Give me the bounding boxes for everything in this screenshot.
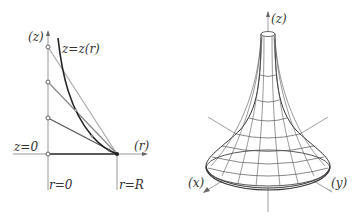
r-R-label: r=R bbox=[119, 178, 144, 192]
y-axis-label: (y) bbox=[331, 176, 347, 190]
tangent-point bbox=[108, 149, 111, 152]
x-axis-label: (x) bbox=[188, 176, 204, 190]
tangent-line-mid bbox=[48, 82, 117, 154]
top-ring bbox=[261, 32, 275, 37]
tangent-point bbox=[75, 109, 78, 112]
z-zero-label: z=0 bbox=[13, 140, 38, 154]
surface-outline bbox=[206, 34, 330, 188]
surface-of-revolution-diagram: (z) (x) (y) bbox=[188, 11, 347, 212]
profile-curve-diagram: (z) z=z(r) z=0 (r) r=0 r=R bbox=[13, 30, 149, 192]
z-axis-arrow-icon bbox=[46, 30, 50, 36]
tangent-line-top bbox=[48, 47, 117, 154]
axis-point bbox=[46, 116, 50, 120]
z-axis-label: (z) bbox=[28, 30, 44, 44]
R-point bbox=[115, 152, 119, 156]
z-axis-arrow-icon bbox=[266, 11, 270, 17]
axis-point bbox=[46, 80, 50, 84]
z-axis-label: (z) bbox=[271, 12, 287, 26]
curve-label: z=z(r) bbox=[61, 42, 100, 56]
axis-point bbox=[46, 45, 50, 49]
diagram-canvas: (z) z=z(r) z=0 (r) r=0 r=R bbox=[0, 0, 360, 219]
r-zero-label: r=0 bbox=[49, 178, 73, 192]
axis-point bbox=[46, 152, 50, 156]
r-axis-label: (r) bbox=[134, 139, 149, 153]
tangent-point bbox=[91, 135, 94, 138]
